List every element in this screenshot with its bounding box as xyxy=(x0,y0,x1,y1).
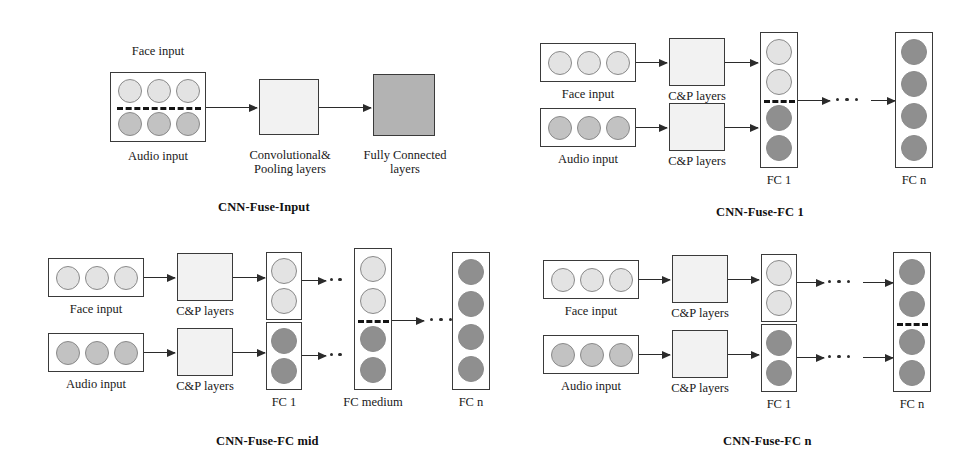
label-fc-line1: Fully Connected xyxy=(364,148,447,162)
face-node-2-p4 xyxy=(580,268,604,292)
label-audio-input-p1: Audio input xyxy=(110,150,206,164)
face-cp-block-p2 xyxy=(669,38,725,86)
arrow-fc1-audio-to-dots-p4 xyxy=(797,357,824,358)
fc1-face-node-1-p4 xyxy=(766,260,792,286)
label-fcn-p4: FC n xyxy=(892,398,932,412)
face-input-block-p3 xyxy=(48,258,144,297)
face-node-1-p3 xyxy=(56,266,80,290)
label-fc1-p2: FC 1 xyxy=(759,174,799,188)
figure-cnn-fusion-architectures: { "figure": { "kind": "neural-network-ar… xyxy=(0,0,976,474)
fcn-column-p3 xyxy=(452,252,490,390)
fc1-face-node-2-p4 xyxy=(766,290,792,316)
fc1-node-4-p2 xyxy=(766,135,792,161)
label-audio-cp-p3: C&P layers xyxy=(172,380,238,394)
panel-title-cnn-fuse-fcn: CNN-Fuse-FC n xyxy=(723,434,811,449)
fully-connected-block-p1 xyxy=(373,74,435,136)
arrow-fc1-face-to-dots-p3 xyxy=(302,280,326,281)
ellipsis-dot xyxy=(338,278,341,281)
arrow-face-cp-to-fc1-p2 xyxy=(725,62,758,63)
conv-pool-block-p1 xyxy=(259,79,319,135)
label-audio-cp-p4: C&P layers xyxy=(667,382,733,396)
ellipsis-dots-trunk-p3 xyxy=(430,318,452,321)
fc1-face-node-1-p3 xyxy=(271,258,297,284)
input-node-audio-1 xyxy=(118,112,142,136)
face-node-2-p3 xyxy=(85,266,109,290)
fcn-node-4-p3 xyxy=(458,356,484,382)
fc1-column-p2 xyxy=(760,32,798,168)
fcn-node-4-p2 xyxy=(901,135,927,161)
label-fully-connected-p1: Fully Connected layers xyxy=(355,148,455,176)
fc1-face-column-p3 xyxy=(266,252,302,320)
fc1-audio-node-2-p4 xyxy=(766,360,792,386)
input-block-p1 xyxy=(110,72,206,142)
fusion-dashed-separator-p1 xyxy=(117,107,201,110)
audio-input-block-p4 xyxy=(543,335,639,374)
fcn-node-2-p2 xyxy=(901,71,927,97)
face-input-block-p4 xyxy=(543,260,639,299)
label-face-input-p4: Face input xyxy=(543,305,639,319)
ellipsis-dots-p2 xyxy=(836,98,858,101)
ellipsis-dot xyxy=(828,355,831,358)
ellipsis-dot xyxy=(330,278,333,281)
input-node-face-2 xyxy=(147,79,171,103)
arrow-audio-to-cp-p4 xyxy=(639,354,670,355)
fc1-audio-node-1-p3 xyxy=(271,328,297,354)
fc-medium-column-p3 xyxy=(354,248,392,390)
fcn-node-1-p3 xyxy=(458,259,484,285)
fc1-node-3-p2 xyxy=(766,105,792,131)
ellipsis-dots-audio-p4 xyxy=(828,355,850,358)
audio-cp-block-p3 xyxy=(177,328,233,376)
ellipsis-dot xyxy=(338,353,341,356)
fusion-dashed-separator-p2 xyxy=(764,100,795,103)
face-node-1-p4 xyxy=(551,268,575,292)
fcn-node-1-p4 xyxy=(899,259,925,285)
audio-node-3-p3 xyxy=(114,341,138,365)
face-cp-block-p3 xyxy=(177,253,233,301)
arrow-audio-to-cp-p2 xyxy=(636,127,667,128)
fc1-node-1-p2 xyxy=(766,39,792,65)
fcmed-node-2-p3 xyxy=(360,288,386,314)
label-audio-input-p4: Audio input xyxy=(543,380,639,394)
fcn-node-3-p2 xyxy=(901,103,927,129)
label-fcn-p3: FC n xyxy=(451,396,491,410)
label-face-input-p2: Face input xyxy=(540,88,636,102)
arrow-dots-audio-to-fcn-p4 xyxy=(863,357,893,358)
label-audio-input-p2: Audio input xyxy=(540,153,636,167)
label-face-cp-p2: C&P layers xyxy=(664,90,730,104)
audio-cp-block-p2 xyxy=(669,103,725,151)
ellipsis-dots-face-p4 xyxy=(828,280,850,283)
fcn-node-3-p3 xyxy=(458,324,484,350)
fc1-audio-node-2-p3 xyxy=(271,358,297,384)
arrow-dots-face-to-fcn-p4 xyxy=(863,282,893,283)
audio-node-2-p3 xyxy=(85,341,109,365)
fcn-node-2-p4 xyxy=(899,291,925,317)
face-node-3-p3 xyxy=(114,266,138,290)
label-face-input-p3: Face input xyxy=(48,303,144,317)
fc1-audio-node-1-p4 xyxy=(766,330,792,356)
arrow-face-cp-to-fc1-p4 xyxy=(728,279,759,280)
ellipsis-dot xyxy=(847,355,850,358)
audio-node-2-p4 xyxy=(580,343,604,367)
label-face-input-p1: Face input xyxy=(110,45,206,59)
arrow-fcmed-to-dots-p3 xyxy=(392,320,424,321)
fusion-dashed-separator-p3 xyxy=(358,320,389,323)
arrow-audio-cp-to-fc1-p4 xyxy=(728,354,759,355)
ellipsis-dot xyxy=(845,98,848,101)
fcn-node-4-p4 xyxy=(899,360,925,386)
label-conv-pool-p1: Convolutional& Pooling layers xyxy=(244,148,336,176)
fcmed-node-3-p3 xyxy=(360,326,386,352)
panel-title-cnn-fuse-fc1: CNN-Fuse-FC 1 xyxy=(716,205,804,220)
label-audio-cp-p2: C&P layers xyxy=(664,155,730,169)
ellipsis-dot xyxy=(430,318,433,321)
face-node-3-p4 xyxy=(609,268,633,292)
panel-title-cnn-fuse-input: CNN-Fuse-Input xyxy=(218,200,310,215)
fcn-column-p4 xyxy=(893,252,931,392)
input-node-face-1 xyxy=(118,79,142,103)
fcn-column-p2 xyxy=(895,32,933,168)
face-input-block-p2 xyxy=(540,43,636,82)
panel-title-cnn-fuse-fc-mid: CNN-Fuse-FC mid xyxy=(216,434,319,449)
audio-cp-block-p4 xyxy=(672,330,728,378)
arrow-audio-cp-to-fc1-p2 xyxy=(725,127,758,128)
ellipsis-dots-face-p3 xyxy=(330,278,342,281)
fc1-audio-column-p3 xyxy=(266,322,302,390)
